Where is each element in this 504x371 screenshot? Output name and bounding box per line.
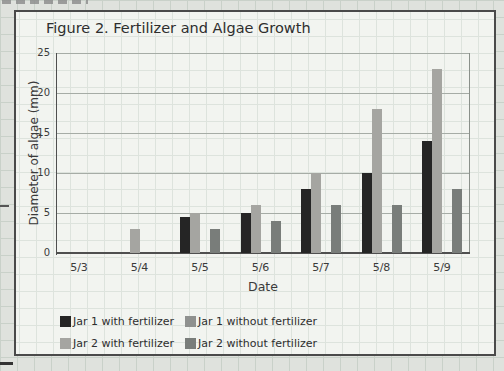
legend-item: Jar 1 with fertilizer — [60, 315, 174, 327]
legend-swatch — [185, 338, 196, 349]
legend-label: Jar 1 without fertilizer — [198, 315, 317, 328]
legend-swatch — [60, 316, 71, 327]
legend-swatch — [60, 338, 71, 349]
legend-item: Jar 2 without fertilizer — [185, 337, 317, 349]
legend-swatch — [185, 316, 196, 327]
legend-item: Jar 1 without fertilizer — [185, 315, 317, 327]
legend-label: Jar 2 with fertilizer — [73, 337, 174, 350]
scanned-page: Figure 2. Fertilizer and Algae Growth Di… — [0, 0, 504, 371]
legend-label: Jar 1 with fertilizer — [73, 315, 174, 328]
legend-item: Jar 2 with fertilizer — [60, 337, 174, 349]
legend-label: Jar 2 without fertilizer — [198, 337, 317, 350]
legend: Jar 1 with fertilizerJar 1 without ferti… — [0, 0, 504, 371]
